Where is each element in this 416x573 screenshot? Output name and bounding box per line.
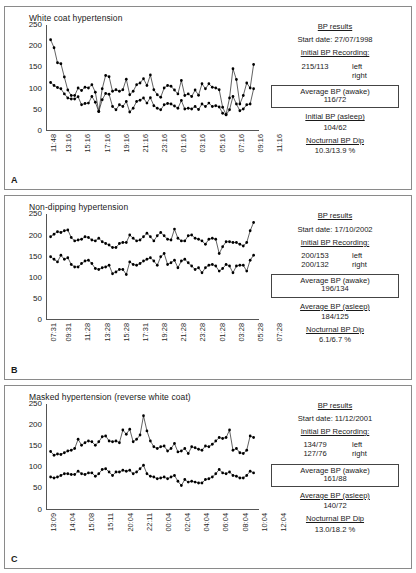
y-tick-label: 50 [33, 106, 42, 114]
data-point [232, 474, 235, 477]
data-point [190, 265, 193, 268]
data-point [56, 452, 59, 455]
data-point [173, 259, 176, 262]
data-point [249, 434, 252, 437]
data-point [170, 102, 173, 105]
data-point [135, 240, 138, 243]
data-point [101, 468, 104, 471]
average-awake-value: 161/88 [274, 475, 396, 483]
data-point [225, 113, 228, 116]
data-point [94, 474, 97, 477]
data-point [111, 246, 114, 249]
data-point [225, 241, 228, 244]
data-point [232, 272, 235, 275]
panel-a-title: White coat hypertension [29, 13, 123, 23]
data-point [104, 467, 107, 470]
x-tick-label: 15:16 [84, 134, 91, 153]
start-date: Start date: 17/10/2002 [265, 226, 405, 234]
x-tick-label: 04:04 [203, 513, 210, 532]
x-tick-label: 01:28 [219, 323, 226, 342]
data-point [139, 433, 142, 436]
initial-left-value: 134/79 [292, 441, 338, 449]
data-point [214, 87, 217, 90]
panel-c-plot [46, 404, 259, 510]
data-point [163, 103, 166, 106]
asleep-value: 140/72 [265, 502, 405, 510]
data-point [111, 474, 114, 477]
initial-left-side: left [352, 441, 378, 449]
data-point [187, 262, 190, 265]
data-point [180, 484, 183, 487]
data-point [118, 441, 121, 444]
data-point [156, 264, 159, 267]
data-point [249, 259, 252, 262]
y-tick-label: 150 [29, 253, 42, 261]
data-point [94, 267, 97, 270]
initial-right-row: 200/132 right [265, 261, 405, 269]
data-point [115, 246, 118, 249]
average-awake-value: 196/134 [274, 285, 396, 293]
data-point [159, 108, 162, 111]
data-point [70, 448, 73, 451]
data-point [56, 230, 59, 233]
x-tick-label: 02:04 [184, 513, 191, 532]
data-point [208, 82, 211, 85]
x-tick-label: 13:09 [50, 513, 57, 532]
data-point [91, 262, 94, 265]
results-heading: BP results [318, 401, 352, 410]
data-point [170, 239, 173, 242]
initial-right-value [292, 72, 338, 80]
data-point [135, 83, 138, 86]
dip-value: 10.3/13.9 % [265, 147, 405, 155]
initial-recording-label: Initial BP Recording: [301, 427, 370, 436]
data-point [180, 449, 183, 452]
data-point [125, 432, 128, 435]
data-point [152, 445, 155, 448]
x-tick-label: 23:16 [161, 134, 168, 153]
data-point [163, 475, 166, 478]
asleep-label: Average BP (asleep) [300, 302, 370, 311]
panel-b-plot [46, 214, 259, 320]
data-point [94, 443, 97, 446]
data-point [152, 240, 155, 243]
data-point [60, 474, 63, 477]
data-point [173, 89, 176, 92]
y-tick-label: 200 [29, 42, 42, 50]
data-point [77, 437, 80, 440]
data-point [149, 73, 152, 76]
data-point [101, 241, 104, 244]
data-point [252, 63, 255, 66]
panel-c-results: BP results Start date: 11/12/2001 Initia… [265, 402, 405, 539]
data-point [108, 75, 111, 78]
data-point [208, 445, 211, 448]
x-tick-label: 11:48 [50, 134, 57, 152]
x-tick-label: 03:28 [238, 323, 245, 342]
data-point [80, 238, 83, 241]
data-point [204, 444, 207, 447]
data-point [70, 236, 73, 239]
y-tick-label: 100 [29, 85, 42, 93]
panel-b-letter: B [11, 365, 18, 375]
x-tick-label: 22:11 [146, 513, 153, 531]
data-point [87, 87, 90, 90]
data-point [132, 472, 135, 475]
data-point [139, 262, 142, 265]
data-point [142, 463, 145, 466]
data-point [197, 108, 200, 111]
data-point [152, 88, 155, 91]
data-point [101, 98, 104, 101]
x-tick-label: 07:16 [238, 134, 245, 153]
data-point [204, 243, 207, 246]
data-point [80, 89, 83, 92]
data-point [221, 437, 224, 440]
y-tick-label: 100 [29, 463, 42, 471]
data-point [173, 228, 176, 231]
data-point [245, 241, 248, 244]
data-point [190, 479, 193, 482]
x-tick-label: 19:28 [161, 323, 168, 342]
initial-left-side: left [352, 63, 378, 71]
data-point [211, 237, 214, 240]
data-point [128, 93, 131, 96]
panel-b-x-axis: 07:3109:3111:2813:2815:2817:3119:2821:28… [46, 322, 259, 366]
panel-a-plot [46, 25, 259, 131]
